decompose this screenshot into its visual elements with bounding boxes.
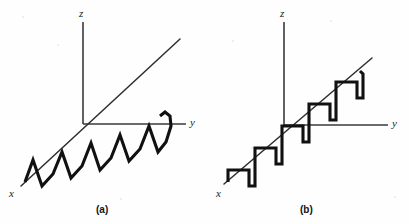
panel-a-y-label: y (190, 117, 195, 128)
panel-a-x-label: x (9, 188, 14, 199)
panel-b-caption: (b) (300, 205, 313, 215)
scan-speck (251, 147, 253, 149)
scan-speck (394, 196, 396, 198)
panel-a-drawing (0, 0, 204, 224)
panel-b-y-label: y (392, 118, 397, 129)
panel-b-square-wave (228, 71, 363, 186)
scan-speck (22, 16, 24, 18)
figure-panel-b: z y x (b) (205, 0, 409, 224)
figure-container: z y x (a) z y x (b) (0, 0, 409, 224)
scan-speck (57, 44, 59, 46)
scan-speck (120, 198, 122, 200)
panel-b-drawing (205, 0, 409, 224)
scan-speck (232, 40, 234, 42)
panel-a-z-label: z (79, 8, 83, 19)
panel-b-x-axis (224, 58, 372, 184)
panel-b-x-label: x (216, 188, 221, 199)
panel-b-z-label: z (280, 8, 284, 19)
panel-a-x-axis (21, 39, 180, 186)
scan-speck (330, 20, 332, 22)
panel-a-sawtooth-wave (25, 112, 171, 186)
panel-a-caption: (a) (96, 205, 108, 215)
figure-panel-a: z y x (a) (0, 0, 204, 224)
